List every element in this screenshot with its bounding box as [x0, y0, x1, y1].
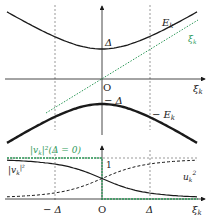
gap-label: Δ [104, 37, 112, 48]
minus-delta-tick-label: − Δ [43, 204, 62, 215]
u-k-squared-label: uk2 [183, 169, 196, 183]
xi-k-label: ξk [188, 34, 197, 45]
bcs-dispersion-diagram: Ek ξk Δ O ξk − Δ − Ek |vk|²(Δ = 0) |vk|²… [0, 0, 212, 220]
minus-gap-label: − Δ [104, 95, 123, 106]
origin-label-bottom: O [98, 204, 106, 215]
delta-tick-label: Δ [145, 204, 153, 215]
one-label: 1 [106, 160, 112, 170]
origin-label-top: O [103, 82, 111, 93]
v-k-squared-label: |vk|² [8, 164, 25, 176]
xi-axis-label-bottom: ξk [192, 204, 202, 217]
xi-axis-label-top: ξk [193, 83, 203, 96]
step-function-label: |vk|²(Δ = 0) [30, 145, 81, 156]
